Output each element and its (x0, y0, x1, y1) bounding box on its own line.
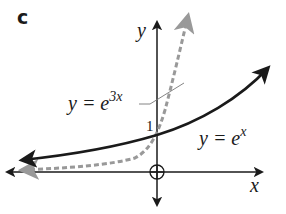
label-e-x: y = ex (197, 124, 247, 150)
label-leader-line (139, 83, 184, 104)
x-axis-label: x (249, 174, 259, 196)
origin-marker-icon (150, 165, 164, 179)
y-axis-label: y (135, 19, 146, 42)
y-intercept-label: 1 (146, 118, 154, 134)
label-e-3x: y = e3x (66, 89, 123, 115)
exponential-graph: y x 1 y = e3x y = ex (0, 0, 286, 214)
